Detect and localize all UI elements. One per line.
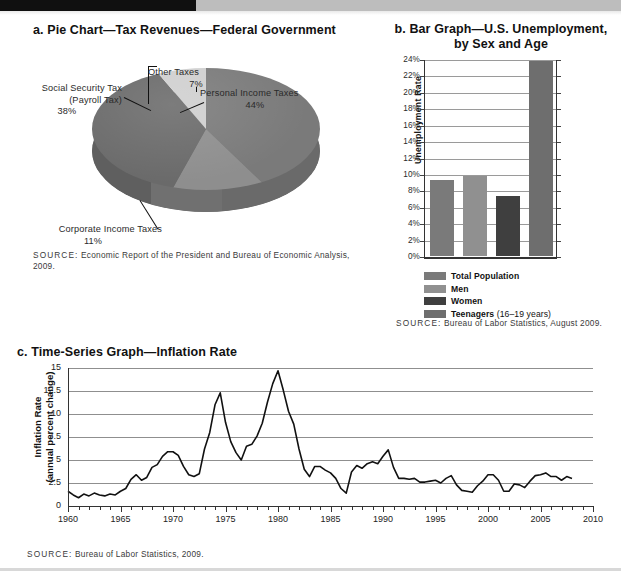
pie-label-personal-income-taxes: Personal Income Taxes 44% [200, 88, 335, 111]
bar-y-tick-label: 18% [390, 104, 420, 113]
bar-axis-v [424, 60, 425, 258]
bar-plot-area: 0%2%4%6%8%10%12%14%16%18%20%22%24% [424, 60, 556, 257]
bar-y-tick-label: 16% [390, 121, 420, 130]
pie-label-corporate-pct: 11% [22, 236, 164, 248]
pie-source-label: SOURCE: [33, 250, 79, 260]
figure-page: a. Pie Chart—Tax Revenues—Federal Govern… [0, 0, 621, 571]
ts-x-tick-label: 2010 [583, 514, 603, 524]
bar-column [430, 180, 454, 256]
bar-y-tick-label: 14% [390, 137, 420, 146]
ts-x-tick-label: 1985 [320, 514, 340, 524]
bar-graph-source: SOURCE: Bureau of Labor Statistics, Augu… [396, 318, 621, 329]
ts-x-tick-label: 2005 [530, 514, 550, 524]
pie-label-other-text: Other Taxes [148, 67, 199, 77]
ts-line-path [68, 371, 572, 498]
bar-y-tick-label: 4% [390, 219, 420, 228]
bar-title-line2: by Sex and Age [454, 37, 548, 51]
bar-y-tick-label: 22% [390, 71, 420, 80]
bar-y-tick-label: 10% [390, 170, 420, 179]
pie-label-social-line2: (Payroll Tax) [69, 95, 122, 105]
bar-graph-title: b. Bar Graph—U.S. Unemployment, by Sex a… [383, 22, 619, 52]
bar-column [529, 61, 553, 256]
bar-y-tick-label: 6% [390, 203, 420, 212]
pie-chart-title: a. Pie Chart—Tax Revenues—Federal Govern… [33, 23, 336, 37]
bar-column [463, 176, 487, 256]
ts-x-tick-label: 1995 [425, 514, 445, 524]
legend-label: Men [451, 284, 469, 294]
bar-y-tick-label: 0% [390, 252, 420, 261]
legend-swatch-icon [424, 285, 446, 293]
bar-column [496, 196, 520, 256]
bar-axis-v2 [556, 60, 557, 258]
bar-y-tick-label: 20% [390, 88, 420, 97]
legend-item[interactable]: Men [424, 283, 551, 296]
pie-chart-source: SOURCE: Economic Report of the President… [33, 250, 363, 272]
bar-y-tick-label: 8% [390, 186, 420, 195]
ts-ylabel-line1: Inflation Rate [32, 397, 43, 458]
pie-label-corporate-income-taxes: Corporate Income Taxes 11% [22, 224, 162, 247]
ts-x-tick-label: 1960 [58, 514, 78, 524]
legend-swatch-icon [424, 310, 446, 318]
header-black-bar [0, 0, 196, 11]
ts-source-label: SOURCE: [27, 549, 73, 559]
bar-source-text: Bureau of Labor Statistics, August 2009. [442, 318, 603, 328]
legend-label: Women [451, 296, 482, 306]
pie-label-other-taxes: Other Taxes 7% [148, 67, 238, 90]
legend-swatch-icon [424, 297, 446, 305]
bar-y-tick-label: 2% [390, 236, 420, 245]
ts-y-tick-label: 10 [27, 408, 61, 418]
ts-y-tick-label: 2.5 [27, 477, 61, 487]
ts-y-tick-label: 12.5 [27, 385, 61, 395]
ts-x-tick-label: 1980 [268, 514, 288, 524]
pie-label-social-security-tax: Social Security Tax (Payroll Tax) 38% [12, 83, 122, 118]
pie-source-text: Economic Report of the President and Bur… [33, 250, 350, 271]
pie-label-social-pct: 38% [12, 106, 122, 118]
pie-label-personal-text: Personal Income Taxes [200, 88, 298, 98]
bar-axis-h [424, 257, 557, 259]
ts-source-text: Bureau of Labor Statistics, 2009. [73, 549, 204, 559]
legend-item[interactable]: Total Population [424, 270, 551, 283]
pie-label-social-line1: Social Security Tax [42, 83, 122, 93]
ts-x-tick-label: 1965 [110, 514, 130, 524]
legend-swatch-icon [424, 272, 446, 280]
bar-source-label: SOURCE: [396, 318, 442, 328]
ts-x-tick-label: 1975 [215, 514, 235, 524]
time-series-plot-area: 02.557.51012.515196019651970197519801985… [68, 368, 593, 506]
header-shadow [0, 11, 621, 15]
pie-label-personal-pct: 44% [200, 100, 310, 112]
ts-series-inflation-rate [68, 368, 593, 506]
bar-title-line1: b. Bar Graph—U.S. Unemployment, [395, 22, 608, 36]
ts-y-tick-label: 7.5 [27, 431, 61, 441]
ts-y-tick-label: 5 [27, 454, 61, 464]
ts-x-tick-label: 1970 [163, 514, 183, 524]
legend-label: Total Population [451, 271, 519, 281]
bar-y-tick-label: 12% [390, 154, 420, 163]
ts-x-tick-label: 1990 [373, 514, 393, 524]
ts-x-tick-label: 2000 [478, 514, 498, 524]
bar-graph-legend: Total PopulationMenWomenTeenagers (16–19… [424, 270, 551, 320]
ts-axis-h [68, 506, 594, 507]
ts-axis-v [68, 368, 69, 507]
ts-y-tick-label: 15 [27, 362, 61, 372]
pie-label-corporate-text: Corporate Income Taxes [59, 224, 162, 234]
ts-y-tick-label: 0 [27, 500, 61, 510]
legend-item[interactable]: Women [424, 295, 551, 308]
time-series-source: SOURCE: Bureau of Labor Statistics, 2009… [27, 549, 204, 560]
bar-y-tick-label: 24% [390, 55, 420, 64]
